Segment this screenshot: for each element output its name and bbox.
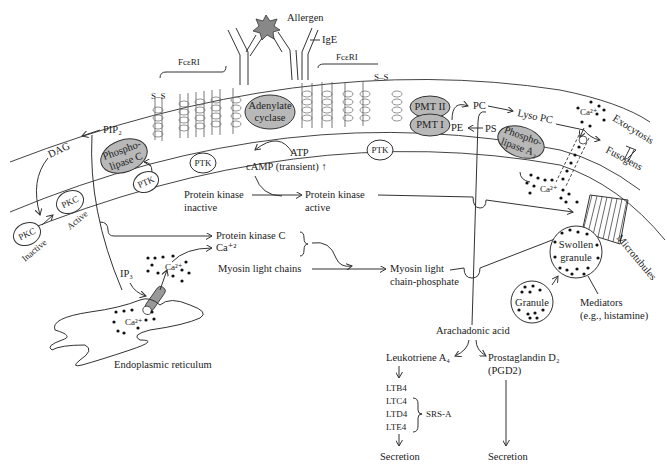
svg-text:Protein kinase: Protein kinase xyxy=(184,189,244,200)
svg-text:Fusogens: Fusogens xyxy=(604,144,644,172)
ip3-er-path: IP₃ Endoplasmic reticulum Ca²⁺ Ca²⁺ xyxy=(50,254,212,370)
svg-text:ATP: ATP xyxy=(290,147,309,158)
svg-text:Adenylate: Adenylate xyxy=(248,100,291,111)
allergen-icon xyxy=(253,15,280,40)
pip2-label: PIP₂ xyxy=(103,124,122,135)
svg-text:Protein kinase C: Protein kinase C xyxy=(216,230,285,241)
svg-text:Prostaglandin D₂: Prostaglandin D₂ xyxy=(488,352,560,363)
svg-text:Secretion: Secretion xyxy=(380,451,420,462)
disulfide-right-label: S–S xyxy=(374,72,389,82)
svg-text:PMT I: PMT I xyxy=(416,119,444,130)
svg-text:(e.g., histamine): (e.g., histamine) xyxy=(580,310,649,322)
pmt-enzymes: PMT II PMT I xyxy=(410,96,450,136)
svg-text:inactive: inactive xyxy=(184,202,218,213)
phospholipase-a2: Phospho- lipase A₂ xyxy=(493,120,548,165)
svg-text:PC: PC xyxy=(473,100,486,111)
arachidonic-path: Arachadonic acid Leukotriene A₄ Prostagl… xyxy=(380,325,560,462)
svg-text:Secretion: Secretion xyxy=(488,451,528,462)
svg-text:granule: granule xyxy=(560,252,592,263)
granule: Granule xyxy=(511,276,558,323)
svg-text:Lyso PC: Lyso PC xyxy=(517,107,554,125)
svg-text:cAMP (transient) ↑: cAMP (transient) ↑ xyxy=(246,161,327,173)
svg-text:Microtubules: Microtubules xyxy=(614,232,658,282)
pkc-ca-path: Protein kinase C Ca⁺² Myosin light chain… xyxy=(100,222,578,287)
svg-text:PTK: PTK xyxy=(194,158,212,168)
svg-text:chain-phosphate: chain-phosphate xyxy=(390,276,459,287)
fceri-left-label: FcεRI xyxy=(178,57,200,67)
allergen-label: Allergen xyxy=(287,12,324,23)
disulfide-left-label: S–S xyxy=(151,91,166,101)
svg-text:Exocytosis: Exocytosis xyxy=(611,112,656,146)
phospholipid-path: PC Lyso PC PE PS Fusogens Exocytosis xyxy=(451,100,656,325)
svg-text:Leukotriene A₄: Leukotriene A₄ xyxy=(386,352,450,363)
svg-text:Arachadonic acid: Arachadonic acid xyxy=(436,325,511,336)
svg-text:Mediators: Mediators xyxy=(580,297,623,308)
svg-text:Myosin light: Myosin light xyxy=(390,263,444,274)
er-label: Endoplasmic reticulum xyxy=(114,359,212,370)
svg-text:PE: PE xyxy=(451,122,463,133)
mediators: Mediators (e.g., histamine) xyxy=(580,276,649,322)
pkc-nodes: PKC PKC Active Inactive xyxy=(10,186,90,263)
svg-text:Myosin light chains: Myosin light chains xyxy=(218,263,301,274)
svg-text:PTK: PTK xyxy=(371,145,389,155)
svg-text:SRS-A: SRS-A xyxy=(426,409,452,419)
svg-text:cyclase: cyclase xyxy=(255,112,286,123)
mast-cell-diagram: Allergen IgE FcεRI FcεRI S–S S–S Adenyla… xyxy=(0,0,667,471)
svg-text:Ca²⁺: Ca²⁺ xyxy=(580,107,598,117)
ige-label: IgE xyxy=(322,34,337,45)
svg-text:Ca²⁺: Ca²⁺ xyxy=(125,317,143,327)
dag-label: DAG xyxy=(46,140,72,160)
svg-text:active: active xyxy=(305,202,330,213)
svg-text:PS: PS xyxy=(485,123,497,134)
svg-text:LTD4: LTD4 xyxy=(386,409,408,419)
svg-text:Ca²⁺: Ca²⁺ xyxy=(540,184,558,194)
svg-text:LTC4: LTC4 xyxy=(386,396,407,406)
ige-allergen-complex: Allergen IgE FcεRI FcεRI S–S S–S xyxy=(151,12,389,101)
svg-text:Ca⁺²: Ca⁺² xyxy=(216,242,236,253)
svg-text:Ca²⁺: Ca²⁺ xyxy=(165,262,183,272)
svg-text:Swollen: Swollen xyxy=(559,239,594,250)
svg-text:PMT II: PMT II xyxy=(414,101,446,112)
endoplasmic-reticulum-shape xyxy=(50,299,203,366)
adenylate-cyclase: Adenylate cyclase xyxy=(245,95,295,129)
fceri-right-label: FcεRI xyxy=(336,52,358,62)
svg-text:Granule: Granule xyxy=(515,297,549,308)
svg-text:(PGD2): (PGD2) xyxy=(488,365,522,377)
svg-text:LTB4: LTB4 xyxy=(386,383,407,393)
svg-text:LTE4: LTE4 xyxy=(386,422,407,432)
svg-text:Protein kinase: Protein kinase xyxy=(305,189,365,200)
svg-text:IP₃: IP₃ xyxy=(120,268,133,279)
swollen-granule: Swollen granule xyxy=(550,226,602,278)
